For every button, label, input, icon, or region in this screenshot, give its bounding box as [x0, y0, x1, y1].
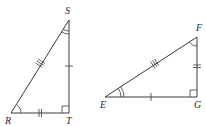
- vertex-label-r: R: [4, 115, 11, 126]
- angle-arc-r: [16, 105, 21, 114]
- vertex-label-g: G: [194, 99, 201, 110]
- angle-arc-e-1: [118, 88, 121, 97]
- triangle-efg-outline: [105, 37, 197, 97]
- triangle-efg: F E G: [99, 22, 203, 110]
- angle-arc-s-2: [62, 32, 69, 34]
- triangle-rst: S R T: [4, 5, 73, 126]
- vertex-label-s: S: [65, 5, 70, 16]
- vertex-label-f: F: [195, 22, 203, 33]
- vertex-label-t: T: [66, 115, 73, 126]
- right-angle-mark-g: [190, 90, 197, 97]
- congruent-triangles-diagram: S R T F E G: [0, 0, 206, 126]
- angle-arc-s-1: [63, 29, 69, 31]
- triangle-rst-outline: [11, 20, 69, 113]
- right-angle-mark-t: [62, 106, 69, 113]
- angle-arc-f: [190, 42, 198, 46]
- angle-arc-e-2: [121, 87, 124, 97]
- vertex-label-e: E: [99, 99, 106, 110]
